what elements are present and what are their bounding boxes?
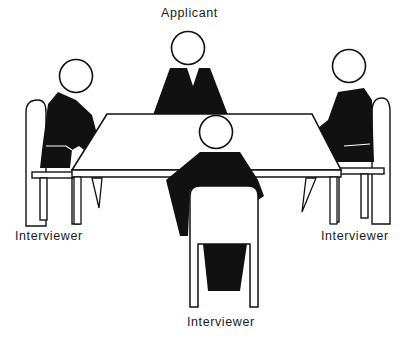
- applicant-torso: [153, 68, 228, 115]
- left-interviewer-head: [60, 60, 93, 93]
- table-leg-left: [74, 177, 81, 224]
- interviewer-left-label: Interviewer: [15, 229, 83, 243]
- interviewer-right-label: Interviewer: [321, 229, 389, 243]
- front-interviewer-chair: [190, 186, 258, 307]
- front-interviewer-head: [200, 116, 233, 149]
- interview-diagram: [0, 0, 414, 345]
- right-interviewer-head: [333, 50, 366, 83]
- applicant-figure: [153, 32, 228, 116]
- interviewer-front-label: Interviewer: [187, 315, 255, 329]
- applicant-label: Applicant: [161, 6, 218, 20]
- applicant-head: [172, 32, 205, 65]
- table-leg-right: [330, 177, 337, 224]
